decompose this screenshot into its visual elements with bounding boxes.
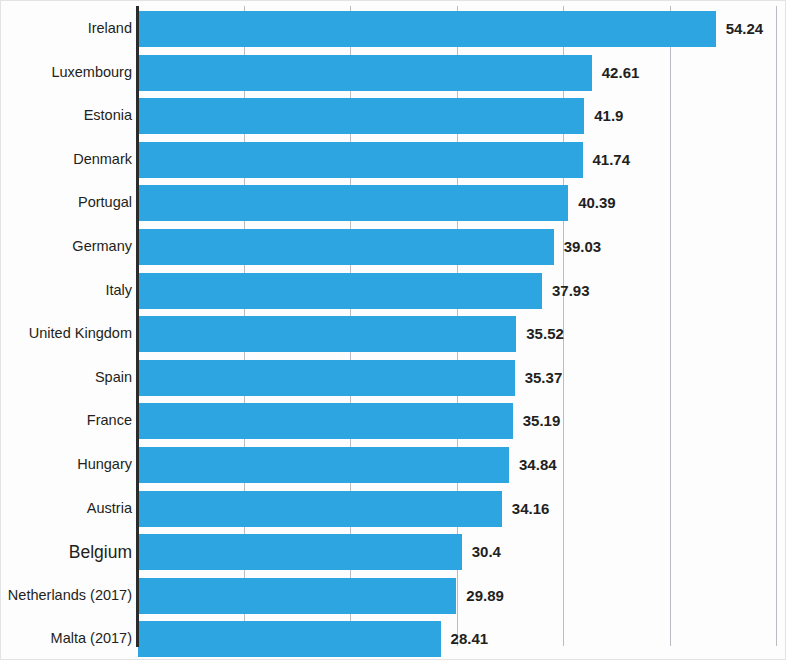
bar-value-label: 35.37 — [525, 370, 563, 385]
bar[interactable] — [138, 55, 592, 91]
bar[interactable] — [138, 491, 502, 527]
bar-row: Germany39.03 — [0, 229, 786, 265]
bar-row: Estonia41.9 — [0, 98, 786, 134]
bar-value-label: 29.89 — [466, 588, 504, 603]
category-label: Malta (2017) — [51, 631, 132, 646]
bar-row: Austria34.16 — [0, 491, 786, 527]
bar[interactable] — [138, 98, 584, 134]
bar[interactable] — [138, 403, 513, 439]
category-label: Spain — [95, 370, 132, 385]
bar[interactable] — [138, 578, 456, 614]
bar[interactable] — [138, 273, 542, 309]
bar-value-label: 41.9 — [594, 108, 623, 123]
category-label: Portugal — [78, 195, 132, 210]
bar-row: Malta (2017)28.41 — [0, 621, 786, 657]
bar-row: Netherlands (2017)29.89 — [0, 578, 786, 614]
category-label: Hungary — [77, 457, 132, 472]
category-label: Austria — [87, 501, 132, 516]
bar[interactable] — [138, 229, 554, 265]
bar[interactable] — [138, 534, 462, 570]
y-axis-line — [136, 6, 139, 647]
category-label: Belgium — [69, 544, 132, 562]
category-label: Italy — [105, 283, 132, 298]
bar-row: France35.19 — [0, 403, 786, 439]
bar-value-label: 41.74 — [593, 152, 631, 167]
category-label: Ireland — [88, 21, 132, 36]
category-label: Estonia — [84, 108, 132, 123]
bar-value-label: 35.19 — [523, 413, 561, 428]
category-label: Germany — [72, 239, 132, 254]
bar-row: Luxembourg42.61 — [0, 55, 786, 91]
bar-value-label: 54.24 — [726, 21, 764, 36]
bar-row: Ireland54.24 — [0, 11, 786, 47]
category-label: France — [87, 413, 132, 428]
category-label: United Kingdom — [29, 326, 132, 341]
bar-value-label: 28.41 — [451, 631, 489, 646]
bar-value-label: 35.52 — [526, 326, 564, 341]
category-label: Denmark — [73, 152, 132, 167]
bar-value-label: 30.4 — [472, 544, 501, 559]
bar-value-label: 34.16 — [512, 501, 550, 516]
category-label: Luxembourg — [51, 65, 132, 80]
bar-row: Denmark41.74 — [0, 142, 786, 178]
bar-row: United Kingdom35.52 — [0, 316, 786, 352]
bar[interactable] — [138, 360, 515, 396]
bar-value-label: 34.84 — [519, 457, 557, 472]
bar[interactable] — [138, 185, 568, 221]
bar-row: Spain35.37 — [0, 360, 786, 396]
bar-value-label: 39.03 — [564, 239, 602, 254]
bar-row: Italy37.93 — [0, 273, 786, 309]
bar-row: Hungary34.84 — [0, 447, 786, 483]
bar-value-label: 40.39 — [578, 195, 616, 210]
bar[interactable] — [138, 142, 583, 178]
bar-row: Portugal40.39 — [0, 185, 786, 221]
category-label: Netherlands (2017) — [8, 588, 132, 603]
bar[interactable] — [138, 621, 441, 657]
bar[interactable] — [138, 11, 716, 47]
bar-value-label: 42.61 — [602, 65, 640, 80]
bar[interactable] — [138, 447, 509, 483]
bar-row: Belgium30.4 — [0, 534, 786, 570]
bar-chart: Ireland54.24Luxembourg42.61Estonia41.9De… — [0, 0, 786, 660]
bar[interactable] — [138, 316, 516, 352]
plot-area: Ireland54.24Luxembourg42.61Estonia41.9De… — [0, 0, 786, 660]
bar-value-label: 37.93 — [552, 283, 590, 298]
